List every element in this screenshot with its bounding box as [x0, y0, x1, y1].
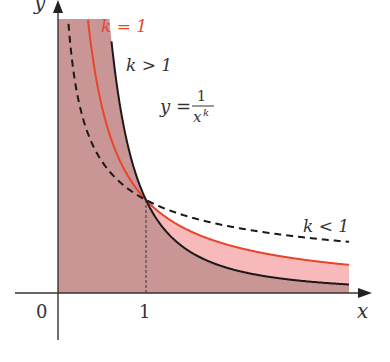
x-tick-label-1: 1 [139, 301, 150, 322]
formula-denominator-base: x [193, 108, 202, 126]
formula-denominator-exponent: k [203, 107, 209, 118]
formula-lhs: y = [159, 96, 191, 117]
formula-numerator: 1 [197, 88, 206, 104]
label-k-equals-1: k = 1 [101, 16, 147, 36]
x-axis-arrow-icon [358, 288, 372, 298]
y-axis-arrow-icon [53, 0, 63, 13]
y-axis-label: y [33, 0, 46, 15]
label-k-greater-1: k > 1 [126, 55, 172, 75]
origin-label: 0 [36, 301, 47, 322]
x-axis-label: x [357, 299, 368, 323]
label-k-less-1: k < 1 [303, 216, 349, 236]
formula: y = 1 x k [159, 88, 214, 126]
function-plot: y x 0 1 k = 1 k > 1 k < 1 y = 1 x k [0, 0, 390, 362]
